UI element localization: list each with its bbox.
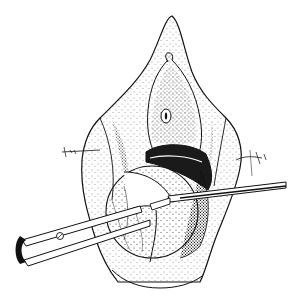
- central-orifice: [161, 109, 171, 123]
- surgical-illustration: [0, 0, 302, 298]
- illustration-canvas: [0, 0, 302, 298]
